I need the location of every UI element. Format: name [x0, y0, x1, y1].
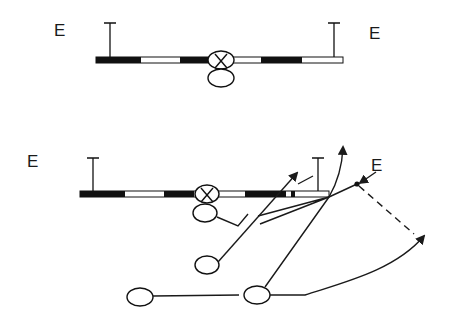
- tackle-marker-left: [104, 23, 116, 57]
- center-player-bottom: [195, 185, 219, 203]
- block-route: [258, 197, 329, 224]
- football-play-diagram: E E E E: [0, 0, 451, 326]
- tackle-marker-right: [328, 23, 340, 57]
- pass-route-dashed: [359, 186, 414, 234]
- qb-drop-route: [217, 214, 248, 226]
- play-routes: [153, 147, 424, 296]
- end-label-top-left: E: [54, 22, 65, 39]
- halfback-route-arrow: [218, 173, 297, 262]
- tackle-marker-left: [87, 158, 99, 191]
- quarterback-bottom: [193, 204, 217, 222]
- fullback-right: [244, 286, 270, 304]
- halfback: [195, 256, 219, 274]
- end-label-top-right: E: [369, 25, 380, 42]
- fullback-left-path: [153, 295, 239, 296]
- fullback-swing-route: [270, 236, 424, 295]
- fullback-left: [127, 288, 153, 306]
- end-label-bottom-left: E: [27, 153, 38, 170]
- quarterback-top: [208, 69, 234, 87]
- end-position-dot: [354, 181, 359, 186]
- center-player-top: [208, 51, 234, 69]
- end-label-bottom-right: E: [371, 157, 382, 174]
- tackle-marker-right: [312, 158, 324, 191]
- formation-top: [96, 23, 343, 87]
